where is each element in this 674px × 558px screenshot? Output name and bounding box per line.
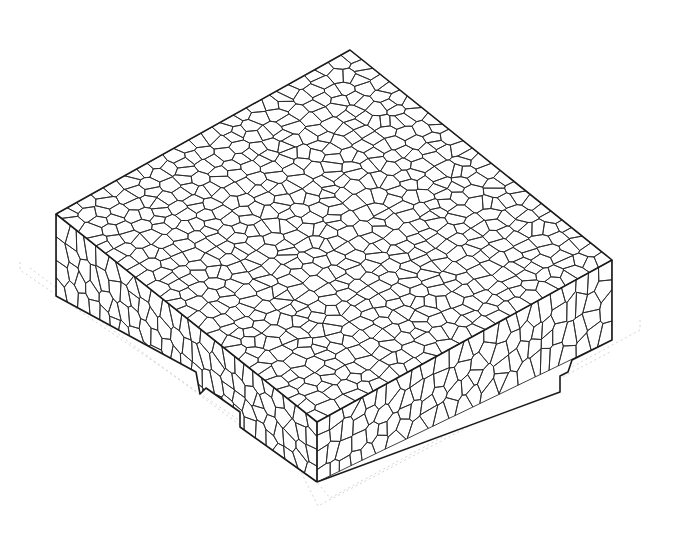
grain-cell — [456, 272, 474, 284]
grain-cell — [270, 202, 291, 214]
grain-cell — [225, 279, 244, 293]
grain-cell — [336, 258, 360, 270]
grain-cell — [483, 230, 504, 243]
grain-cell — [249, 142, 267, 155]
grain-cell — [418, 228, 438, 240]
grain-cell — [334, 122, 354, 136]
grain-cell — [385, 213, 404, 230]
grain-cell — [263, 121, 283, 136]
grain-cell — [504, 247, 524, 262]
grain-cell — [232, 153, 252, 164]
grain-cell — [366, 252, 390, 263]
grain-cell — [278, 208, 296, 220]
grain-cell — [157, 191, 178, 206]
grain-cell — [532, 203, 551, 217]
grain-cell — [497, 210, 516, 226]
grain-cell — [344, 179, 366, 194]
grain-cell — [130, 248, 149, 263]
grain-cell — [322, 143, 342, 155]
grain-cell — [456, 255, 480, 270]
grain-cell — [276, 85, 300, 100]
grain-cell — [354, 125, 375, 138]
grain-cell — [402, 341, 425, 358]
grain-cell — [171, 366, 187, 383]
grain-cell — [335, 273, 354, 284]
grain-cell — [422, 151, 446, 166]
grain-cell — [492, 267, 516, 283]
grain-cell — [395, 158, 412, 170]
grain-cell — [272, 361, 291, 377]
grain-cell — [239, 215, 262, 226]
grain-cell — [159, 272, 179, 285]
grain-cell — [252, 320, 271, 333]
grain-cell — [485, 219, 507, 231]
grain-cell — [422, 113, 443, 125]
grain-cell — [488, 281, 509, 295]
grain-cell — [335, 365, 351, 380]
grain-cell — [483, 188, 506, 198]
grain-cell — [172, 187, 193, 201]
grain-cell — [204, 154, 224, 168]
grain-cell — [168, 279, 189, 292]
grain-cell — [211, 188, 230, 204]
grain-cell — [337, 379, 358, 394]
grain-cell — [436, 239, 457, 254]
grain-cell — [537, 244, 560, 258]
grain-cell — [219, 254, 240, 266]
grain-cell — [302, 181, 322, 196]
grain-cell — [292, 315, 309, 327]
grain-cell — [372, 265, 389, 277]
grain-cell — [96, 197, 120, 210]
left-face — [56, 214, 317, 482]
grain-cell — [395, 209, 420, 223]
grain-cell — [328, 204, 350, 215]
grain-cell — [362, 131, 385, 145]
grain-cell — [543, 222, 560, 236]
grain-cell — [260, 205, 278, 220]
grain-cell — [235, 284, 257, 300]
grain-cell — [412, 120, 432, 136]
grain-cell — [368, 280, 392, 294]
grain-cell — [288, 377, 304, 389]
grain-cell — [343, 68, 356, 84]
grain-cell — [444, 280, 463, 292]
grain-cell — [236, 177, 256, 194]
grain-cell — [243, 130, 262, 143]
grain-cell — [386, 298, 405, 310]
grain-cell — [380, 99, 397, 111]
grain-cell — [242, 148, 259, 161]
grain-cell — [348, 279, 368, 293]
grain-cell — [416, 189, 435, 202]
grain-cell — [168, 200, 188, 215]
grain-cell — [195, 146, 215, 160]
grain-cell — [262, 218, 281, 233]
grain-cell — [330, 95, 350, 106]
grain-cell — [373, 317, 393, 329]
grain-cell — [201, 127, 221, 146]
grain-cell — [114, 243, 136, 256]
grain-cell — [554, 256, 575, 269]
grain-cell — [569, 236, 591, 251]
grain-cell — [352, 151, 368, 164]
grain-cell — [246, 236, 265, 251]
grain-cell — [395, 331, 415, 345]
grain-cell — [245, 250, 269, 265]
grain-cell — [106, 235, 125, 249]
grain-cell — [513, 239, 537, 253]
grain-cell — [465, 237, 489, 250]
grain-cell — [398, 222, 418, 237]
grain-cell — [185, 296, 208, 311]
grain-cell — [414, 332, 437, 346]
grain-cell — [289, 268, 310, 283]
grain-cell — [336, 288, 357, 301]
grain-cell — [380, 352, 398, 366]
grain-cell — [195, 185, 212, 199]
grain-cell — [348, 236, 369, 252]
grain-cell — [437, 199, 457, 212]
grain-cell — [283, 230, 308, 246]
grain-cell — [356, 188, 375, 204]
grain-cell — [311, 76, 335, 90]
grain-cell — [389, 90, 407, 105]
grain-cell — [262, 325, 286, 338]
grain-cell — [185, 150, 202, 164]
